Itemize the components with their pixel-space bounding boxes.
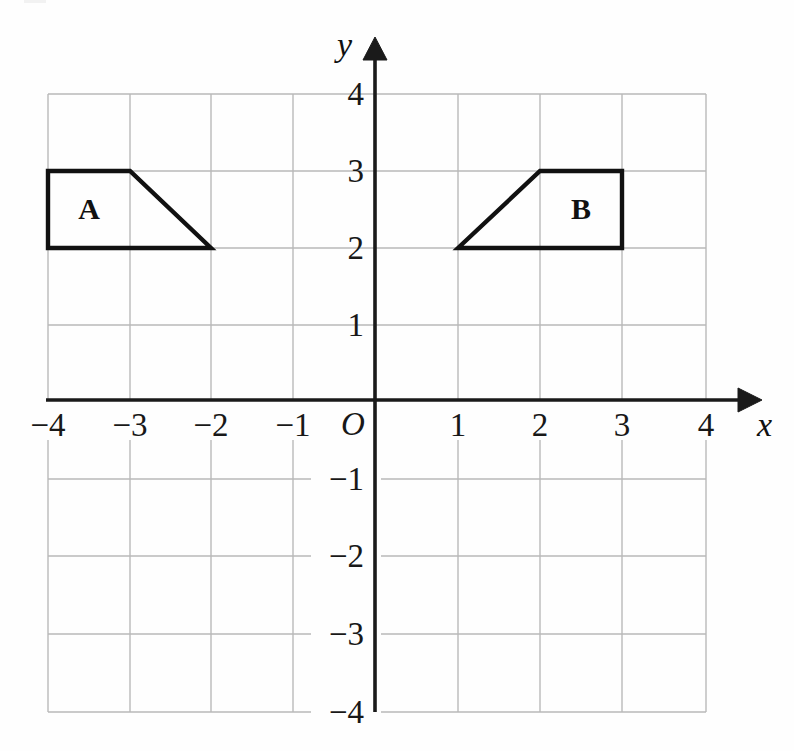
x-tick-label-minus2: −2 [176,409,246,442]
x-tick-label-1: 1 [423,409,493,442]
coordinate-grid-figure: −4 −3 −2 −1 1 2 3 4 O 4 3 2 1 −1 −2 −3 −… [0,0,794,751]
x-tick-label-2: 2 [505,409,575,442]
y-tick-label-4: 4 [274,78,364,111]
y-tick-label-1: 1 [274,309,364,342]
y-tick-label-3: 3 [274,155,364,188]
plot-canvas [0,0,794,751]
x-tick-label-4: 4 [671,409,741,442]
y-tick-label-2: 2 [274,232,364,265]
shape-label-a: A [59,194,119,224]
x-tick-label-minus4: −4 [13,409,83,442]
origin-label: O [341,408,365,441]
x-tick-label-3: 3 [587,409,657,442]
y-tick-label-minus1: −1 [274,463,364,496]
y-axis-label: y [337,28,352,62]
shape-label-b: B [551,194,611,224]
axis-lines [46,37,762,712]
y-tick-label-minus4: −4 [274,696,364,729]
grid-lines-horizontal-lower [48,479,706,712]
y-tick-label-minus3: −3 [274,618,364,651]
x-tick-label-minus1: −1 [258,409,328,442]
y-axis-arrowhead [363,37,387,60]
x-axis-label: x [757,408,772,442]
grid-lines-vertical-lower [48,440,706,712]
y-tick-label-minus2: −2 [274,540,364,573]
x-tick-label-minus3: −3 [95,409,165,442]
